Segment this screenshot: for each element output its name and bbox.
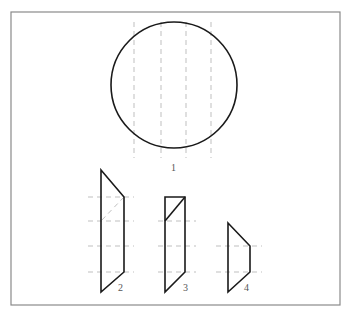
geometry-diagram: 1 2 3 4 [0,0,343,312]
figure-4: 4 [216,223,262,293]
construction-diagonal [101,197,124,221]
cut-line [165,197,185,221]
circle-figure-1 [111,22,237,148]
label-figure-1: 1 [171,162,176,173]
label-figure-3: 3 [183,282,188,293]
vertical-construction-lines [134,22,211,158]
shape-figure-2 [101,170,124,292]
label-figure-4: 4 [244,282,249,293]
shape-figure-3 [165,197,185,292]
figure-3: 3 [158,197,196,293]
figure-2: 2 [88,170,134,293]
diagram-frame [11,12,340,305]
label-figure-2: 2 [118,282,123,293]
